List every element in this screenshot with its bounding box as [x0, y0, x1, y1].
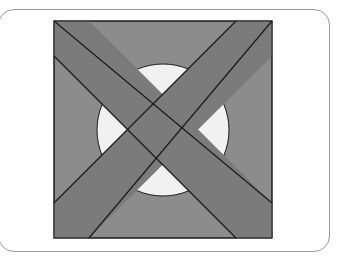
x-over-circle-figure [0, 0, 342, 258]
